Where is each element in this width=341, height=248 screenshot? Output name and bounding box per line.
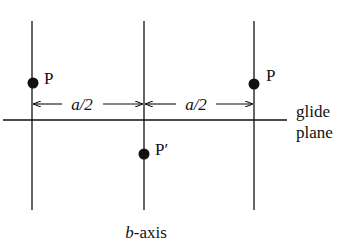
point-label-p-left: P (44, 69, 53, 88)
dim-label-right: a/2 (185, 95, 207, 114)
point-p-left (28, 78, 39, 89)
point-label-p-right: P (266, 66, 275, 85)
diagram-canvas: a/2 a/2 P P′ P glide plane b-axis (0, 0, 341, 248)
glide-plane-diagram: a/2 a/2 P P′ P glide plane b-axis (0, 0, 341, 248)
axis-label-italic: b (125, 223, 134, 242)
glide-label-line2: plane (296, 123, 333, 142)
axis-label: b-axis (125, 223, 167, 242)
dim-label-left: a/2 (71, 95, 93, 114)
point-p-prime (139, 149, 150, 160)
point-p-right (249, 79, 260, 90)
axis-label-rest: -axis (134, 223, 167, 242)
point-label-p-prime: P′ (155, 140, 168, 159)
glide-label-line1: glide (296, 102, 330, 121)
